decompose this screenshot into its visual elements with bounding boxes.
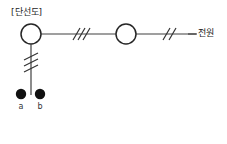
source-label: 전원 bbox=[198, 27, 214, 39]
slash-marks-feeder-three-phase bbox=[24, 53, 38, 72]
terminal-dot-a bbox=[16, 89, 26, 99]
terminal-label-a: a bbox=[16, 102, 26, 112]
node-left-circle bbox=[21, 24, 41, 44]
diagram-canvas bbox=[0, 0, 227, 144]
terminal-dot-b bbox=[35, 89, 45, 99]
terminal-label-b: b bbox=[35, 102, 45, 112]
single-line-diagram: [단선도] 전원 bbox=[0, 0, 227, 144]
node-right-circle bbox=[116, 24, 136, 44]
